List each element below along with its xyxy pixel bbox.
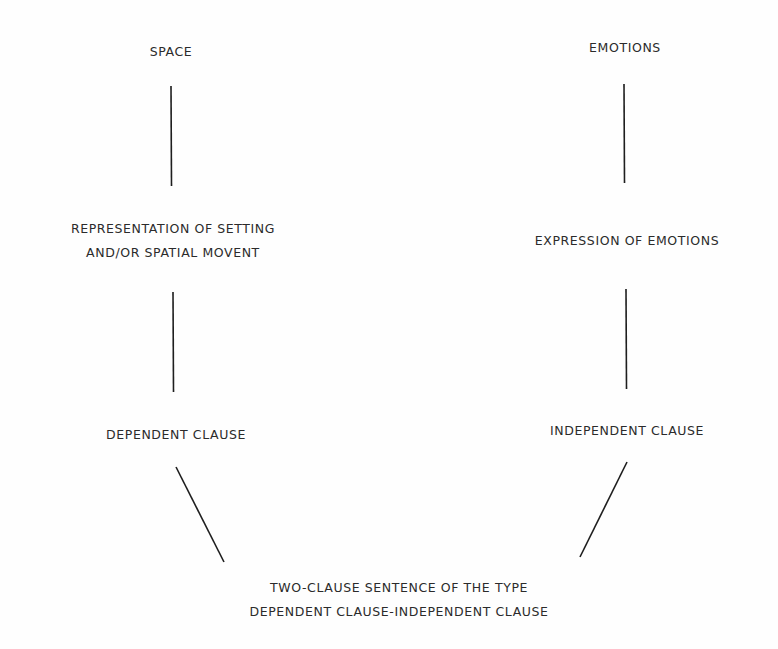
node-dependent-clause-label: DEPENDENT CLAUSE [106,423,246,447]
node-space-label: SPACE [150,40,193,64]
node-setting-line-1: REPRESENTATION OF SETTING [71,217,275,241]
node-space: SPACE [150,40,193,64]
edge-dependent-to-root [176,467,224,562]
edge-expression-to-independent [626,289,627,389]
node-emotions-label: EMOTIONS [589,36,661,60]
node-independent-clause-label: INDEPENDENT CLAUSE [550,419,704,443]
node-setting-line-2: AND/OR SPATIAL MOVENT [71,241,275,265]
node-two-clause-sentence: TWO-CLAUSE SENTENCE OF THE TYPE DEPENDEN… [249,576,548,624]
node-setting-movement: REPRESENTATION OF SETTING AND/OR SPATIAL… [71,217,275,265]
edge-independent-to-root [580,462,627,557]
node-independent-clause: INDEPENDENT CLAUSE [550,419,704,443]
edge-space-to-setting [171,86,172,186]
edge-emotions-to-expression [624,84,625,183]
node-root-line-2: DEPENDENT CLAUSE-INDEPENDENT CLAUSE [249,600,548,624]
edge-setting-to-dependent [173,292,174,392]
clause-diagram: SPACE REPRESENTATION OF SETTING AND/OR S… [0,0,778,649]
node-expression-of-emotions: EXPRESSION OF EMOTIONS [535,229,719,253]
node-root-line-1: TWO-CLAUSE SENTENCE OF THE TYPE [249,576,548,600]
node-expression-label: EXPRESSION OF EMOTIONS [535,229,719,253]
diagram-connectors [0,0,778,649]
node-dependent-clause: DEPENDENT CLAUSE [106,423,246,447]
node-emotions: EMOTIONS [589,36,661,60]
